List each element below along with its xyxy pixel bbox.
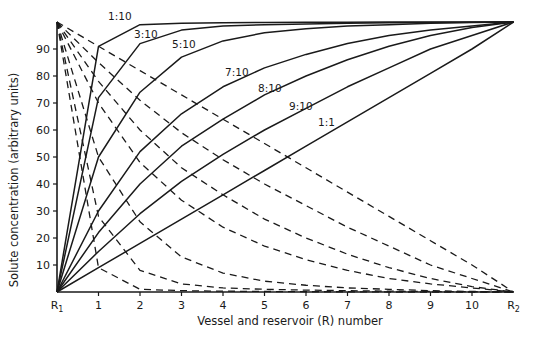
x-tick-label: 4	[220, 299, 227, 312]
y-tick-label: 60	[36, 124, 50, 137]
curve-label: 1:1	[318, 116, 335, 128]
y-axis-label-text: Solute concentration (arbitrary units)	[7, 73, 21, 287]
y-axis-label: Solute concentration (arbitrary units)	[4, 60, 24, 300]
chart-canvas: R112345678910R2102030405060708090 1:103:…	[0, 0, 540, 347]
y-tick-label: 20	[36, 232, 50, 245]
curve-label: 3:10	[134, 28, 158, 40]
x-tick-label: 10	[465, 299, 479, 312]
y-tick-label: 90	[36, 43, 50, 56]
y-tick-label: 30	[36, 205, 50, 218]
x-tick-label: R2	[507, 299, 520, 314]
y-tick-label: 40	[36, 178, 50, 191]
x-tick-label: 6	[303, 299, 310, 312]
x-tick-label: 7	[344, 299, 351, 312]
x-tick-label: 9	[427, 299, 434, 312]
x-tick-label: R1	[51, 299, 64, 314]
curve-label: 5:10	[172, 38, 196, 50]
series-lines	[57, 22, 514, 292]
y-tick-label: 70	[36, 97, 50, 110]
curve-labels: 1:103:105:107:108:109:101:1	[108, 10, 335, 128]
x-tick-label: 1	[95, 299, 102, 312]
curve-label: 7:10	[225, 66, 249, 78]
curve-label: 9:10	[289, 100, 313, 112]
curve-label: 8:10	[258, 82, 282, 94]
y-tick-label: 50	[36, 151, 50, 164]
axes: R112345678910R2102030405060708090	[36, 22, 520, 314]
y-tick-label: 10	[36, 259, 50, 272]
x-tick-label: 8	[386, 299, 393, 312]
x-tick-label: 5	[261, 299, 268, 312]
x-tick-label: 3	[178, 299, 185, 312]
x-tick-label: 2	[137, 299, 144, 312]
y-tick-label: 80	[36, 70, 50, 83]
curve-label: 1:10	[108, 10, 132, 22]
x-axis-label: Vessel and reservoir (R) number	[140, 314, 440, 328]
